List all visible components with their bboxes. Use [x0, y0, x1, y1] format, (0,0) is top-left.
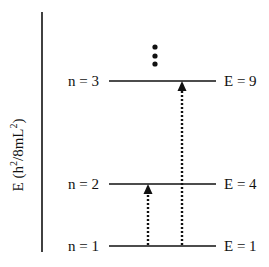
energy-level-n3: n = 3 E = 9 [68, 73, 257, 89]
e-label: E = 1 [224, 238, 257, 254]
energy-level-diagram: E (h2/8mL2) n = 3 E = 9 n = 2 E = 4 n = … [0, 0, 269, 267]
energy-level-n2: n = 2 E = 4 [68, 176, 257, 192]
arrow-head-icon [178, 81, 187, 91]
n-label: n = 2 [68, 176, 99, 192]
e-label: E = 9 [224, 73, 257, 89]
transition-arrow-1-to-3 [178, 81, 187, 245]
arrow-head-icon [144, 184, 153, 194]
n-label: n = 3 [68, 73, 99, 89]
energy-level-n1: n = 1 E = 1 [68, 238, 257, 254]
y-axis-label: E (h2/8mL2) [8, 119, 27, 192]
e-label: E = 4 [224, 176, 257, 192]
vertical-ellipsis-icon [152, 44, 157, 66]
transition-arrow-1-to-2 [144, 184, 153, 245]
n-label: n = 1 [68, 238, 99, 254]
